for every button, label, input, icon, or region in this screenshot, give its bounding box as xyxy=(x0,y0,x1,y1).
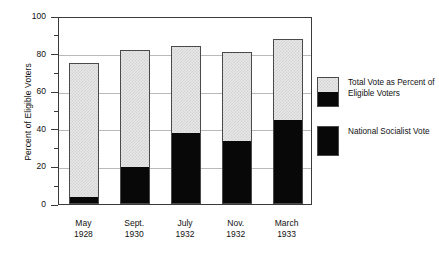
y-tick-80 xyxy=(51,54,58,55)
chart-figure: Percent of Eligible Voters 020406080100 … xyxy=(0,0,439,261)
y-tick-label-80: 80 xyxy=(12,49,46,59)
legend-swatch-total-vote xyxy=(317,77,339,107)
plot-area xyxy=(58,17,312,205)
bar-segment-total-vote xyxy=(70,64,98,197)
y-tick-100 xyxy=(51,17,58,18)
bar-segment-national-socialist xyxy=(70,197,98,203)
legend-label-total-vote: Total Vote as Percent of Eligible Voters xyxy=(348,78,439,99)
legend-swatch-black-half xyxy=(318,92,338,106)
y-tick-label-60: 60 xyxy=(12,86,46,96)
legend-item-total-vote: Total Vote as Percent of Eligible Voters xyxy=(312,76,439,108)
y-tick-label-100: 100 xyxy=(12,11,46,21)
bar-segment-national-socialist xyxy=(223,141,251,203)
bar-segment-national-socialist xyxy=(121,167,149,203)
x-axis-label-4: March1933 xyxy=(255,218,319,239)
bar-nov.-1932 xyxy=(222,52,252,204)
bar-segment-national-socialist xyxy=(172,133,200,203)
y-tick-label-0: 0 xyxy=(12,199,46,209)
legend-label-national-socialist: National Socialist Vote xyxy=(348,127,439,138)
bar-segment-total-vote xyxy=(172,47,200,133)
y-tick-40 xyxy=(51,129,58,130)
y-tick-60 xyxy=(51,92,58,93)
y-tick-label-20: 20 xyxy=(12,161,46,171)
bar-may-1928 xyxy=(69,63,99,204)
bar-segment-total-vote xyxy=(121,51,149,167)
y-tick-label-40: 40 xyxy=(12,124,46,134)
bar-july-1932 xyxy=(171,46,201,204)
legend-swatch-national-socialist xyxy=(317,126,339,156)
legend-item-national-socialist: National Socialist Vote xyxy=(312,125,439,157)
bar-segment-national-socialist xyxy=(274,120,302,203)
x-axis-label-line-1: 1933 xyxy=(255,229,319,240)
bar-march-1933 xyxy=(273,39,303,204)
bar-segment-total-vote xyxy=(223,53,251,141)
x-axis-label-line-0: March xyxy=(255,218,319,229)
bar-segment-total-vote xyxy=(274,40,302,121)
y-tick-20 xyxy=(51,167,58,168)
y-tick-0 xyxy=(51,205,58,206)
bar-sept.-1930 xyxy=(120,50,150,204)
legend-swatch-gray-half xyxy=(318,78,338,92)
chart-legend: Total Vote as Percent of Eligible Voters… xyxy=(312,76,439,174)
